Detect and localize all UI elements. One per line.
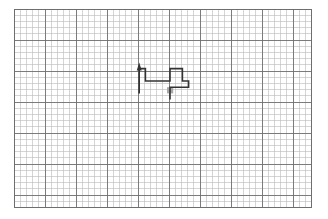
grid-figure-svg <box>0 0 328 219</box>
figure-canvas <box>0 0 328 219</box>
canvas-background <box>0 0 328 219</box>
